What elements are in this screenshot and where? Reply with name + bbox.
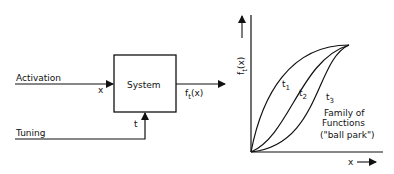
curve-label-t1: t1 [282,79,290,92]
tuning-var: t [134,119,138,129]
output-label: ft(x) [185,88,203,101]
activation-label: Activation [16,73,61,83]
x-axis-label: x [348,157,354,167]
curve-label-t3: t3 [326,92,334,105]
system-label: System [127,80,161,90]
tuning-label: Tuning [15,128,45,138]
curve-label-t2: t2 [299,88,307,101]
input-var: x [98,85,104,95]
caption: Family of Functions ("ball park") [320,108,375,140]
y-axis-label: ft(x) [236,57,249,75]
diagram: System Activation x Tuning t ft(x) ft(x)… [0,0,394,174]
